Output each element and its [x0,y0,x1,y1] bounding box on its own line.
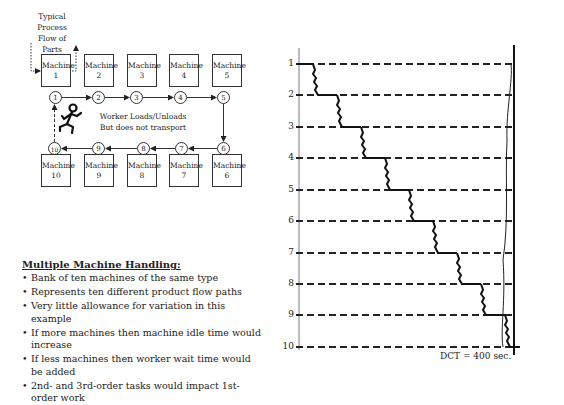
list-item: Very little allowance for variation in t… [22,300,262,325]
y-tick: 4 [280,152,294,162]
y-tick: 2 [280,89,294,99]
y-tick: 6 [280,215,294,225]
y-tick: 5 [280,184,294,194]
flow-arrows [55,98,224,149]
list-item: Bank of ten machines of the same type [22,272,262,285]
worker-loading-chart [296,45,520,355]
list-item: If less machines then worker wait time w… [22,353,262,378]
list-item: 2nd- and 3rd-order tasks would impact 1s… [22,380,262,405]
notes-list: Bank of ten machines of the same type Re… [22,272,262,405]
y-tick: 9 [280,309,294,319]
y-tick: 10 [280,341,294,351]
running-person-icon [60,105,81,134]
typical-flow-arrow [31,43,76,71]
y-tick: 3 [280,121,294,131]
list-item: Represents ten different product flow pa… [22,286,262,299]
y-tick: 8 [280,278,294,288]
y-tick: 1 [280,58,294,68]
list-item: If more machines then machine idle time … [22,327,262,352]
notes-heading: Multiple Machine Handling: [22,259,181,270]
y-tick: 7 [280,247,294,257]
dct-annotation: DCT = 400 sec. [440,351,511,361]
